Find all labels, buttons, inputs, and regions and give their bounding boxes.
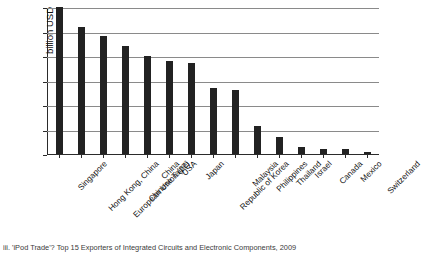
x-category-label: Singapore (77, 160, 109, 192)
y-tick-mark (43, 33, 47, 34)
y-tick-mark (43, 106, 47, 107)
bar[interactable] (166, 61, 173, 154)
x-category-label: Switzerland (386, 160, 422, 196)
bar[interactable] (188, 63, 195, 154)
bar-slot (268, 8, 290, 154)
y-tick-mark (43, 131, 47, 132)
bar-slot (136, 8, 158, 154)
y-tick-mark (43, 57, 47, 58)
x-category-label: Hong Kong, China (108, 160, 161, 213)
bar-slot (202, 8, 224, 154)
bar-slot (48, 8, 70, 154)
bar[interactable] (144, 56, 151, 154)
bar-slot (70, 8, 92, 154)
bar[interactable] (254, 126, 261, 154)
bar-slot (224, 8, 246, 154)
bar[interactable] (276, 137, 283, 154)
bar[interactable] (78, 27, 85, 154)
bar[interactable] (100, 36, 107, 154)
bar-slot (114, 8, 136, 154)
bar-slot (312, 8, 334, 154)
y-tick-mark (43, 8, 47, 9)
bar-slot (92, 8, 114, 154)
bar-slot (356, 8, 378, 154)
chart-plot-area: billion USD 0102030405060 (47, 8, 379, 155)
bar[interactable] (232, 90, 239, 154)
figure-caption: iii. 'iPod Trade'? Top 15 Exporters of I… (3, 243, 383, 252)
bar[interactable] (56, 7, 63, 154)
bar-slot (180, 8, 202, 154)
bar-series (48, 8, 379, 154)
bar[interactable] (298, 147, 305, 154)
x-category-label: Canada (338, 160, 364, 186)
y-tick-mark (43, 82, 47, 83)
x-axis-category-labels: SingaporeHong Kong, ChinaEuropean Union … (47, 158, 387, 238)
bar-slot (334, 8, 356, 154)
bar-slot (246, 8, 268, 154)
x-category-label: Japan (205, 160, 227, 182)
bar[interactable] (122, 46, 129, 154)
bar-slot (290, 8, 312, 154)
bar-slot (158, 8, 180, 154)
y-tick-mark (43, 155, 47, 156)
bar[interactable] (210, 88, 217, 154)
